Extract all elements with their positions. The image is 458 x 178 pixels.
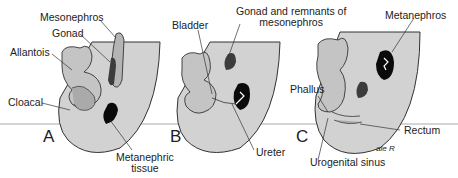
label-mesonephros: Mesonephros [40, 12, 104, 23]
label-ureter: Ureter [256, 147, 285, 158]
panel-letter-c: C [296, 127, 308, 147]
label-urogenital-sinus: Urogenital sinus [310, 157, 385, 168]
label-gonad-remnants-line2: mesonephros [236, 17, 346, 28]
panel-a-drawing [59, 33, 160, 153]
label-metanephros: Metanephros [385, 10, 446, 21]
label-phallus: Phallus [290, 84, 324, 95]
label-gonad: Gonad [52, 28, 84, 39]
label-gonad-remnants: Gonad and remnants of mesonephros [236, 6, 346, 28]
label-allantois: Allantois [10, 47, 50, 58]
panel-b-drawing [177, 42, 280, 153]
artist-signature: ale R [376, 143, 395, 154]
label-rectum: Rectum [404, 125, 440, 136]
panel-letter-a: A [43, 127, 54, 147]
panel-letter-b: B [170, 127, 181, 147]
label-metanephric-tissue: Metanephric tissue [116, 152, 174, 174]
label-bladder: Bladder [172, 20, 208, 31]
label-cloacal: Cloacal [8, 97, 43, 108]
label-metanephric-line2: tissue [116, 163, 174, 174]
